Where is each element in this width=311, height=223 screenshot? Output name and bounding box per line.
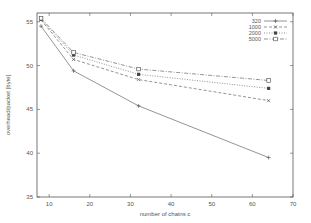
series-5000: [39, 16, 270, 82]
y-tick-label: 50: [26, 63, 33, 69]
x-tick-label: 70: [290, 201, 297, 207]
y-axis-label: overhead/packet [byte]: [5, 74, 11, 135]
x-tick-label: 60: [249, 201, 256, 207]
x-tick-label: 50: [208, 201, 215, 207]
series-1000: [39, 18, 270, 102]
y-tick-label: 45: [26, 106, 33, 112]
y-tick-label: 35: [26, 194, 33, 200]
y-tick-label: 40: [26, 150, 33, 156]
series-320: [39, 24, 271, 159]
x-tick-label: 20: [86, 201, 93, 207]
x-tick-label: 40: [168, 201, 175, 207]
y-tick-label: 55: [26, 19, 33, 25]
plot-series: [39, 16, 271, 159]
line-chart: 102030405060703540455055 320100020005000…: [0, 0, 311, 223]
x-axis-label: number of chains c: [140, 211, 191, 217]
legend-item-5000: 5000: [249, 36, 287, 42]
x-tick-label: 10: [46, 201, 53, 207]
legend: 320100020005000: [249, 18, 287, 42]
x-tick-label: 30: [127, 201, 134, 207]
plot-axes: 102030405060703540455055: [26, 13, 297, 207]
svg-text:5000: 5000: [249, 36, 261, 42]
